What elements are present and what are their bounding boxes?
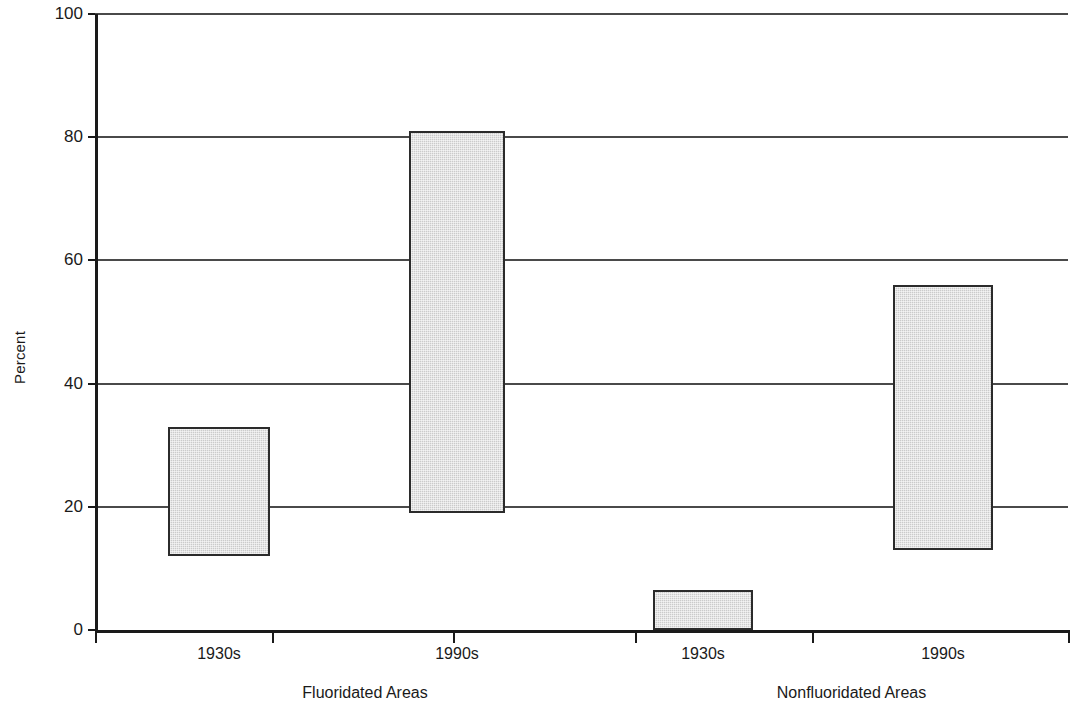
x-tick-mark (635, 630, 637, 643)
y-tick-label: 100 (13, 5, 83, 22)
x-group-label: Nonfluoridated Areas (702, 684, 1002, 702)
y-tick-label: 0 (13, 621, 83, 638)
bar (653, 590, 753, 630)
x-category-label: 1990s (873, 645, 1013, 663)
gridline-60 (95, 259, 1068, 261)
x-category-label: 1990s (387, 645, 527, 663)
x-axis-line (95, 630, 1070, 633)
y-tick-label: 20 (13, 498, 83, 515)
x-group-label: Fluoridated Areas (215, 684, 515, 702)
x-tick-mark (272, 630, 274, 643)
gridline-80 (95, 136, 1068, 138)
y-tick-label: 60 (13, 251, 83, 268)
x-tick-mark (95, 630, 97, 643)
y-axis-label-container: Percent (6, 0, 32, 715)
y-axis-line (95, 14, 98, 632)
bar (893, 285, 993, 550)
y-axis-label: Percent (6, 0, 32, 715)
x-tick-mark (1068, 630, 1070, 643)
gridline-100 (95, 13, 1068, 15)
y-tick-label: 40 (13, 375, 83, 392)
x-tick-mark (453, 630, 455, 643)
chart-figure: Percent 020406080100 1930s1990s1930s1990… (0, 0, 1085, 715)
bar (168, 427, 270, 556)
bar (409, 131, 505, 513)
x-category-label: 1930s (149, 645, 289, 663)
y-tick-label: 80 (13, 128, 83, 145)
x-tick-mark (812, 630, 814, 643)
x-category-label: 1930s (633, 645, 773, 663)
